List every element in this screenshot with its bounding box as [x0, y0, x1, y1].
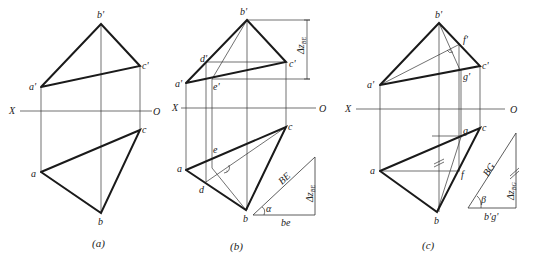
- point-a: a: [31, 168, 36, 179]
- svg-text:BG: BG: [480, 161, 496, 178]
- point-b-prime: b': [97, 9, 105, 20]
- svg-text:ΔzBE: ΔzBE: [304, 185, 316, 203]
- point-b: b: [98, 216, 103, 227]
- point-d: d: [199, 184, 205, 195]
- caption-a: (a): [92, 237, 105, 250]
- caption-b: (b): [230, 240, 243, 253]
- caption-c: (c): [422, 239, 435, 252]
- top-view-triangle: [380, 128, 480, 212]
- point-a-prime: a': [367, 79, 375, 90]
- panel-c: X O β b'g' BG ΔzBG: [344, 9, 519, 252]
- point-b-prime: b': [240, 6, 248, 17]
- point-b: b: [434, 215, 439, 226]
- line-a-prime-f-prime: [380, 44, 460, 85]
- panel-b: X O ΔzBE α be: [171, 6, 326, 253]
- panel-a: X O b' c' a' c a b (a): [8, 9, 160, 250]
- right-angle-dot: [449, 49, 450, 50]
- right-angle-dot: [226, 170, 227, 171]
- point-c-prime: c': [482, 60, 489, 71]
- point-e-prime: e': [213, 81, 220, 92]
- axis-o-label: O: [319, 103, 326, 114]
- angle-beta-label: β: [480, 194, 486, 205]
- true-length-triangle: [253, 157, 315, 215]
- top-view-triangle: [41, 130, 140, 213]
- projection-diagram: X O b' c' a' c a b (a) X O: [0, 0, 542, 263]
- point-c: c: [142, 124, 147, 135]
- angle-alpha-label: α: [266, 203, 272, 214]
- dimension-label: ΔzBE: [295, 37, 307, 55]
- hypotenuse-label: BG: [480, 161, 496, 178]
- point-a-prime: a': [175, 78, 183, 89]
- line-e-b: [212, 168, 246, 210]
- angle-arc-alpha: [262, 207, 265, 215]
- triangle-base-label: be: [281, 217, 291, 228]
- svg-text:BE: BE: [276, 170, 292, 186]
- point-b: b: [243, 213, 248, 224]
- axis-x-label: X: [344, 103, 352, 114]
- point-d-prime: d': [200, 53, 208, 64]
- point-c: c: [288, 121, 293, 132]
- front-view-triangle: [41, 24, 140, 87]
- point-c-prime: c': [289, 58, 296, 69]
- hypotenuse-label: BE: [276, 170, 292, 186]
- point-f-prime: f': [463, 34, 469, 45]
- point-c: c: [482, 122, 487, 133]
- axis-x-label: X: [8, 105, 16, 116]
- point-g: g: [463, 125, 468, 136]
- point-g-prime: g': [463, 71, 471, 82]
- point-a: a: [370, 165, 375, 176]
- axis-o-label: O: [510, 104, 517, 115]
- axis-o-label: O: [153, 106, 160, 117]
- axis-x-label: X: [171, 102, 179, 113]
- point-e: e: [213, 144, 218, 155]
- line-d-c: [206, 127, 286, 182]
- point-c-prime: c': [142, 60, 149, 71]
- triangle-base-label: b'g': [484, 211, 499, 222]
- line-b-g: [437, 137, 461, 212]
- line-b-prime-g-prime: [439, 23, 460, 70]
- triangle-vertical-label: ΔzBG: [505, 182, 517, 201]
- point-a: a: [177, 163, 182, 174]
- triangle-vertical-label: ΔzBE: [304, 185, 316, 203]
- front-view-triangle: [186, 20, 286, 83]
- point-a-prime: a': [29, 81, 37, 92]
- point-b-prime: b': [435, 9, 443, 20]
- svg-text:ΔzBG: ΔzBG: [505, 182, 517, 201]
- svg-text:ΔzBE: ΔzBE: [295, 37, 307, 55]
- point-f: f: [461, 169, 465, 180]
